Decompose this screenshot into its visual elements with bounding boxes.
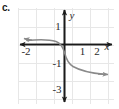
- curve-right-arrow: [98, 74, 108, 75]
- y-tick-label-1: 1: [55, 20, 61, 32]
- x-tick-label-2: 2: [94, 45, 100, 57]
- y-tick-label-neg1: -1: [52, 57, 61, 69]
- y-tick-label-neg3: -3: [52, 83, 62, 95]
- x-tick-label-neg2: -2: [21, 45, 30, 57]
- graph-svg: -2 1 2 1 -1 -3 x y: [18, 8, 114, 104]
- part-label: c.: [2, 3, 10, 13]
- coordinate-graph: -2 1 2 1 -1 -3 x y: [18, 8, 114, 104]
- x-tick-label-1: 1: [80, 45, 86, 57]
- graph-screenshot: c.: [0, 0, 119, 109]
- x-axis-label: x: [104, 40, 110, 52]
- y-axis-label: y: [69, 9, 75, 21]
